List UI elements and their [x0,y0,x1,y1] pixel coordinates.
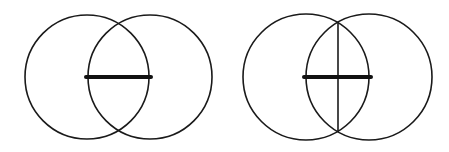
construction-diagram [0,0,449,152]
figure-2 [243,14,432,140]
figure-1 [25,15,212,139]
